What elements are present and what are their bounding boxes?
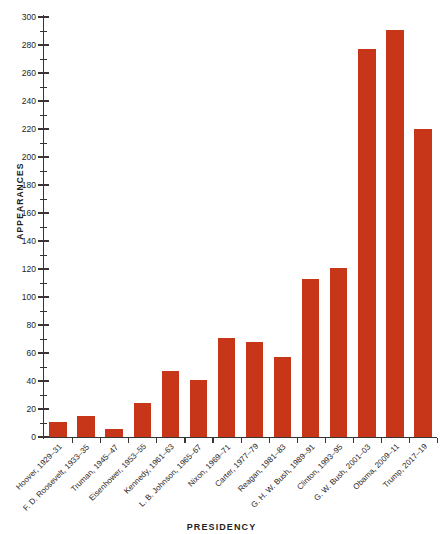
bar [162,371,179,437]
y-tick-label: 120 [0,265,36,274]
y-tick-label: 280 [0,41,36,50]
x-tick [297,438,298,443]
x-tick [72,438,73,443]
y-tick-label: 100 [0,293,36,302]
x-category-label: Obama, 2009–11 [352,443,401,492]
y-axis-tick-labels: 0204060801001201401601802002202402602803… [0,0,36,534]
x-category-label: Reagan, 1981–83 [237,443,288,494]
bar [77,416,94,437]
y-tick-label: 20 [0,405,36,414]
plot-area [44,17,437,437]
x-tick [409,438,410,443]
x-tick [437,438,438,443]
x-tick [100,438,101,443]
x-category-label: G. W. Bush, 2001–03 [313,443,372,502]
bar-chart-figure: APPEARANCES 0204060801001201401601802002… [0,0,443,534]
bar [246,342,263,437]
x-category-label: Carter, 1977–79 [214,443,260,489]
y-tick-label: 260 [0,69,36,78]
y-tick-label: 40 [0,377,36,386]
x-category-label: Clinton, 1993–95 [296,443,344,491]
x-category-label: Eisenhower, 1953–55 [88,443,148,503]
x-category-label: Nixon, 1969–71 [187,443,232,488]
x-tick [241,438,242,443]
x-tick [184,438,185,443]
bar [358,49,375,437]
bar [134,403,151,437]
x-category-label: L. B. Johnson, 1965–67 [138,443,203,508]
y-tick-label: 220 [0,125,36,134]
bar [49,422,66,437]
x-tick [325,438,326,443]
bar [105,429,122,437]
x-category-label: Kennedy, 1961–63 [123,443,176,496]
y-tick-label: 300 [0,13,36,22]
y-tick-label: 160 [0,209,36,218]
y-tick-label: 240 [0,97,36,106]
bar [330,268,347,437]
y-tick-label: 60 [0,349,36,358]
y-tick-label: 140 [0,237,36,246]
y-tick-label: 200 [0,153,36,162]
bar [386,30,403,437]
x-category-label: Trump, 2017–19 [382,443,429,490]
x-tick [353,438,354,443]
y-tick-label: 0 [0,433,36,442]
x-tick [381,438,382,443]
x-tick [156,438,157,443]
x-category-label: Truman, 1945–47 [70,443,120,493]
x-axis-title: PRESIDENCY [0,522,443,532]
bar [302,279,319,437]
bar [218,338,235,437]
bar [414,129,431,437]
y-tick-label: 80 [0,321,36,330]
x-category-label: G. H. W. Bush, 1989–91 [250,443,317,510]
y-tick-label: 180 [0,181,36,190]
x-tick [212,438,213,443]
x-tick [269,438,270,443]
bar [190,380,207,437]
bar [274,357,291,437]
x-tick [128,438,129,443]
